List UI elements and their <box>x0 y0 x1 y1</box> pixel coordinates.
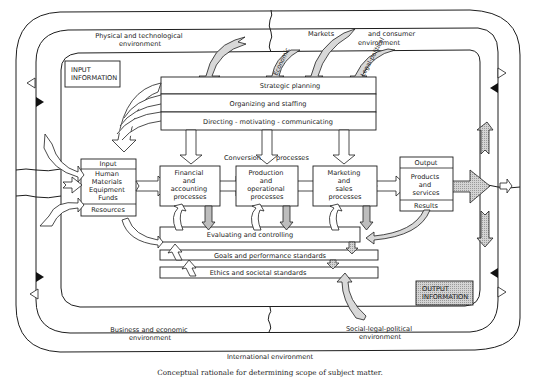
ring-arrow-left-lower-open <box>30 289 38 299</box>
svg-text:Input: Input <box>99 160 116 168</box>
figure-caption: Conceptual rationale for determining sco… <box>157 368 383 377</box>
resources-to-evaluating-arrow <box>122 218 163 248</box>
process-marketing-sales: Marketing and sales processes <box>313 166 377 206</box>
feedback-down-arrow-production <box>280 206 293 230</box>
ring-arrow-left-upper-open <box>27 78 35 88</box>
function-directing: Directing - motivating - communicating <box>203 118 333 126</box>
bar-evaluating-controlling: Evaluating and controlling <box>207 231 293 239</box>
control-up-arrow-production <box>251 204 264 230</box>
output-results-block: Output Products and services Results <box>400 157 453 211</box>
env-social-legal-political: Social-legal-political environment <box>346 325 414 341</box>
vertical-arrow-up-right <box>477 122 493 154</box>
down-arrow-to-financial <box>180 130 202 164</box>
feedback-down-arrow-marketing <box>360 206 373 230</box>
down-arrow-to-marketing <box>333 130 355 164</box>
output-information-box: OUTPUTINFORMATION <box>416 281 473 305</box>
env-business-economic: Business and economic environment <box>110 326 190 342</box>
social-legal-political-arrow <box>337 273 366 320</box>
bar-goals-performance: Goals and performance standards <box>214 252 327 260</box>
input-resources-block: Input Human Materials Equipment Funds Re… <box>81 159 136 216</box>
results-to-evaluating-arrow <box>366 210 430 244</box>
svg-text:Production and ope: Production and operational processes <box>247 169 287 201</box>
svg-text:Resources: Resources <box>91 206 125 214</box>
env-physical-technological: Physical and technological environment <box>95 32 185 48</box>
control-up-arrow-marketing <box>329 204 342 230</box>
output-to-outer-ring-arrow <box>500 179 512 193</box>
process-production-operational: Production and operational processes <box>236 166 298 206</box>
resource-inflow-arrow-top <box>44 134 84 182</box>
process-financial-accounting: Financial and accounting processes <box>160 166 220 206</box>
feedback-down-arrow-financial <box>202 206 215 230</box>
left-divider-upper <box>16 169 61 171</box>
top-divider <box>269 10 272 52</box>
ring-arrow-right-lower-open <box>498 287 506 297</box>
svg-text:Results: Results <box>414 202 438 210</box>
ring-arrow-left-upper-filled <box>36 97 44 107</box>
svg-text:Financial and acco: Financial and accounting processes <box>171 169 210 201</box>
resource-inflow-arrow-bottom <box>40 198 84 226</box>
ring-arrow-right-upper-filled <box>490 83 498 93</box>
bottom-divider <box>268 307 271 332</box>
input-information-box: INPUTINFORMATION <box>65 61 120 87</box>
function-strategic-planning: Strategic planning <box>260 82 321 90</box>
svg-text:Output: Output <box>415 159 438 167</box>
input-info-fan-arrows <box>112 83 161 152</box>
bar-ethics-societal: Ethics and societal standards <box>210 269 307 277</box>
ring-arrow-right-upper-open <box>498 68 506 78</box>
ring-arrow-right-lower-filled <box>490 268 498 278</box>
management-functions-stack: Strategic planning Organizing and staffi… <box>161 77 376 130</box>
economic-label: Economic <box>272 46 291 77</box>
env-international: International environment <box>227 353 314 361</box>
control-up-arrow-financial <box>173 204 186 230</box>
left-divider-lower <box>16 195 61 198</box>
function-organizing-staffing: Organizing and staffing <box>229 100 306 108</box>
env-markets-consumer: Markets and consumer environment <box>308 30 417 47</box>
vertical-arrow-down-right <box>477 211 493 247</box>
scope-diagram: Physical and technological environment M… <box>0 0 534 381</box>
ring-arrow-left-lower-filled <box>36 272 44 282</box>
